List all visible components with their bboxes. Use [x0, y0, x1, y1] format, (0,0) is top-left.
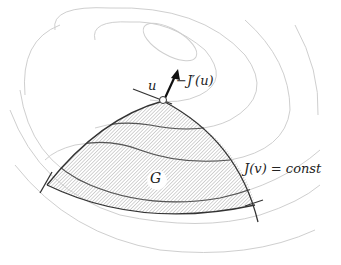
label-u: u — [148, 78, 156, 93]
label-gradient: −J′(u) — [176, 73, 214, 88]
label-region-G: G — [150, 170, 161, 186]
diagram-svg — [0, 0, 341, 265]
label-level-set: J(v) = const — [244, 161, 321, 176]
optimization-diagram: u −J′(u) G J(v) = const — [0, 0, 341, 265]
point-u — [160, 97, 167, 104]
